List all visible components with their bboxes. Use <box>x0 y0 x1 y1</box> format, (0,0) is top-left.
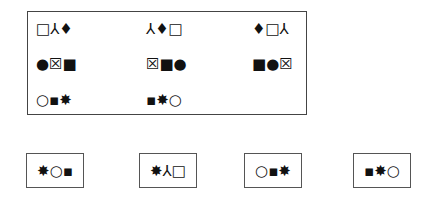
grid-cell-2-2: ☒■● <box>146 57 187 72</box>
option-4[interactable]: ▪✸○ <box>353 153 411 188</box>
option-2[interactable]: ✸⅄□ <box>139 153 197 188</box>
grid-cell-2-3: ■●☒ <box>252 57 293 72</box>
option-3[interactable]: ○▪✸ <box>244 153 302 188</box>
option-1[interactable]: ✸○▪ <box>26 153 84 188</box>
grid-cell-1-1: □⅄♦ <box>36 22 73 37</box>
grid-cell-3-2: ▪✸○ <box>146 93 182 108</box>
grid-cell-1-2: ⅄♦□ <box>146 22 183 37</box>
grid-cell-1-3: ♦□⅄ <box>252 22 289 37</box>
puzzle-grid: □⅄♦ ⅄♦□ ♦□⅄ ●☒■ ☒■● ■●☒ ○▪✸ ▪✸○ <box>27 11 307 115</box>
grid-cell-3-1: ○▪✸ <box>36 93 72 108</box>
grid-cell-2-1: ●☒■ <box>36 57 77 72</box>
